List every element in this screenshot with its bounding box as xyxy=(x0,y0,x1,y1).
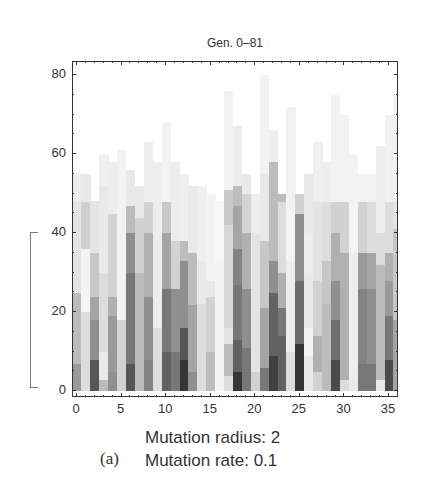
heatmap-cell xyxy=(99,352,108,380)
heatmap-cell xyxy=(286,261,295,352)
x-tick-label: 30 xyxy=(328,401,358,416)
heatmap-cell xyxy=(90,320,99,360)
heatmap-cell xyxy=(81,201,90,249)
heatmap-cell xyxy=(188,304,197,372)
heatmap-cell xyxy=(322,162,331,202)
x-tick-mark xyxy=(85,61,86,63)
heatmap-cell xyxy=(269,205,278,261)
y-minor-tick xyxy=(396,94,398,95)
x-tick-mark xyxy=(236,395,237,397)
heatmap-cell xyxy=(135,217,144,273)
x-tick-mark xyxy=(272,395,273,397)
heatmap-cell xyxy=(242,348,251,392)
x-tick-mark xyxy=(299,61,300,65)
y-minor-tick xyxy=(72,193,74,194)
heatmap-cell xyxy=(180,174,189,242)
heatmap-cell xyxy=(340,201,349,253)
heatmap-cell xyxy=(197,304,206,391)
heatmap-cell xyxy=(331,233,340,281)
heatmap-cell xyxy=(295,280,304,344)
heatmap-cell xyxy=(340,379,349,391)
heatmap-cell xyxy=(224,190,233,226)
heatmap-cell xyxy=(180,261,189,329)
y-minor-tick xyxy=(396,252,398,253)
x-tick-mark xyxy=(219,61,220,63)
heatmap-cell xyxy=(340,115,349,202)
heatmap-cell xyxy=(233,284,242,340)
x-tick-mark xyxy=(129,395,130,397)
y-tick-label: 20 xyxy=(36,303,66,318)
heatmap-cell xyxy=(224,328,233,344)
heatmap-cell xyxy=(349,253,358,380)
y-minor-tick xyxy=(72,252,74,253)
heatmap-cell xyxy=(295,344,304,392)
x-tick-mark xyxy=(76,61,77,65)
x-tick-mark xyxy=(138,61,139,63)
heatmap-cell xyxy=(197,261,206,305)
x-tick-mark xyxy=(121,61,122,65)
x-tick-mark xyxy=(94,395,95,397)
heatmap-cell xyxy=(358,363,367,391)
y-tick-mark xyxy=(72,311,76,312)
heatmap-cell xyxy=(206,296,215,352)
heatmap-cell xyxy=(171,241,180,289)
heatmap-cells xyxy=(73,62,397,396)
heatmap-cell xyxy=(171,162,180,241)
x-tick-mark xyxy=(370,61,371,63)
heatmap-cell xyxy=(188,253,197,305)
heatmap-cell xyxy=(278,273,287,309)
x-tick-mark xyxy=(379,61,380,63)
x-tick-mark xyxy=(192,395,193,397)
heatmap-cell xyxy=(90,359,99,391)
heatmap-cell xyxy=(340,253,349,380)
heatmap-cell xyxy=(206,194,215,281)
heatmap-cell xyxy=(206,280,215,296)
heatmap-cell xyxy=(126,273,135,364)
x-tick-mark xyxy=(245,61,246,63)
x-tick-mark xyxy=(156,395,157,397)
heatmap-cell xyxy=(162,352,171,392)
heatmap-cell xyxy=(233,340,242,372)
y-tick-mark xyxy=(72,74,76,75)
x-tick-mark xyxy=(281,61,282,63)
plot-area xyxy=(72,61,398,397)
y-minor-tick xyxy=(396,291,398,292)
heatmap-cell xyxy=(99,273,108,352)
heatmap-cell xyxy=(153,328,162,392)
heatmap-cell xyxy=(108,316,117,372)
heatmap-cell xyxy=(349,201,358,253)
x-tick-mark xyxy=(326,61,327,63)
heatmap-cell xyxy=(108,213,117,296)
y-minor-tick xyxy=(396,370,398,371)
y-tick-label: 0 xyxy=(36,382,66,397)
heatmap-cell xyxy=(358,174,367,202)
x-tick-mark xyxy=(183,61,184,63)
heatmap-cell xyxy=(117,150,126,194)
y-tick-mark xyxy=(72,153,76,154)
heatmap-cell xyxy=(81,174,90,202)
heatmap-cell xyxy=(304,233,313,273)
x-tick-mark xyxy=(335,395,336,397)
x-tick-mark xyxy=(183,395,184,397)
x-tick-label: 20 xyxy=(239,401,269,416)
heatmap-cell xyxy=(126,363,135,391)
x-tick-mark xyxy=(370,395,371,397)
x-tick-mark xyxy=(94,61,95,63)
heatmap-cell xyxy=(126,233,135,273)
heatmap-cell xyxy=(331,280,340,320)
x-tick-mark xyxy=(290,395,291,397)
y-minor-tick xyxy=(396,193,398,194)
x-tick-mark xyxy=(308,395,309,397)
x-tick-mark xyxy=(174,61,175,63)
x-tick-mark xyxy=(281,395,282,397)
x-tick-mark xyxy=(228,61,229,63)
heatmap-cell xyxy=(367,201,376,253)
x-tick-mark xyxy=(165,393,166,397)
heatmap-cell xyxy=(180,241,189,261)
heatmap-cell xyxy=(304,328,313,356)
x-tick-mark xyxy=(343,393,344,397)
heatmap-cell xyxy=(331,320,340,360)
heatmap-cell xyxy=(393,95,398,202)
heatmap-cell xyxy=(126,170,135,206)
y-minor-tick xyxy=(396,114,398,115)
